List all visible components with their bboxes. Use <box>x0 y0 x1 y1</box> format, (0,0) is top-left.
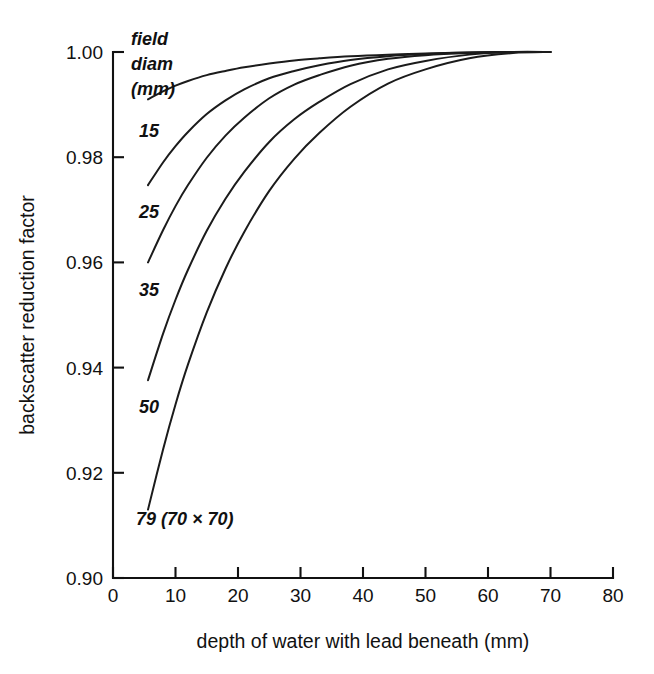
y-tick-label: 0.92 <box>66 463 103 484</box>
legend-header-line-3: (mm) <box>131 79 175 99</box>
y-tick-label: 0.98 <box>66 147 103 168</box>
y-tick-label: 0.96 <box>66 252 103 273</box>
curve-label-35: 35 <box>139 280 160 300</box>
chart-svg: 0.90 0.92 0.94 0.96 0.98 1.00 0 10 20 30… <box>0 0 654 674</box>
x-axis-tick-labels: 0 10 20 30 40 50 60 70 80 <box>108 585 624 606</box>
curve-label-15: 15 <box>139 121 160 141</box>
y-tick-label: 1.00 <box>66 42 103 63</box>
y-tick-label: 0.90 <box>66 568 103 589</box>
curve-label-25: 25 <box>138 202 160 222</box>
curve-label-50: 50 <box>139 397 159 417</box>
x-axis-title: depth of water with lead beneath (mm) <box>197 630 530 652</box>
x-tick-label: 20 <box>227 585 248 606</box>
x-tick-label: 30 <box>290 585 311 606</box>
x-tick-label: 50 <box>415 585 436 606</box>
x-tick-label: 0 <box>108 585 119 606</box>
x-tick-label: 40 <box>352 585 373 606</box>
chart-figure: 0.90 0.92 0.94 0.96 0.98 1.00 0 10 20 30… <box>0 0 654 674</box>
legend-header-line-2: diam <box>131 54 173 74</box>
y-axis-title: backscatter reduction factor <box>16 195 38 435</box>
y-tick-label: 0.94 <box>66 358 103 379</box>
x-tick-label: 10 <box>165 585 186 606</box>
x-tick-label: 80 <box>602 585 623 606</box>
x-tick-label: 60 <box>477 585 498 606</box>
x-tick-label: 70 <box>540 585 561 606</box>
legend-header-line-1: field <box>131 29 169 49</box>
curve-label-79: 79 (70 × 70) <box>136 509 234 529</box>
